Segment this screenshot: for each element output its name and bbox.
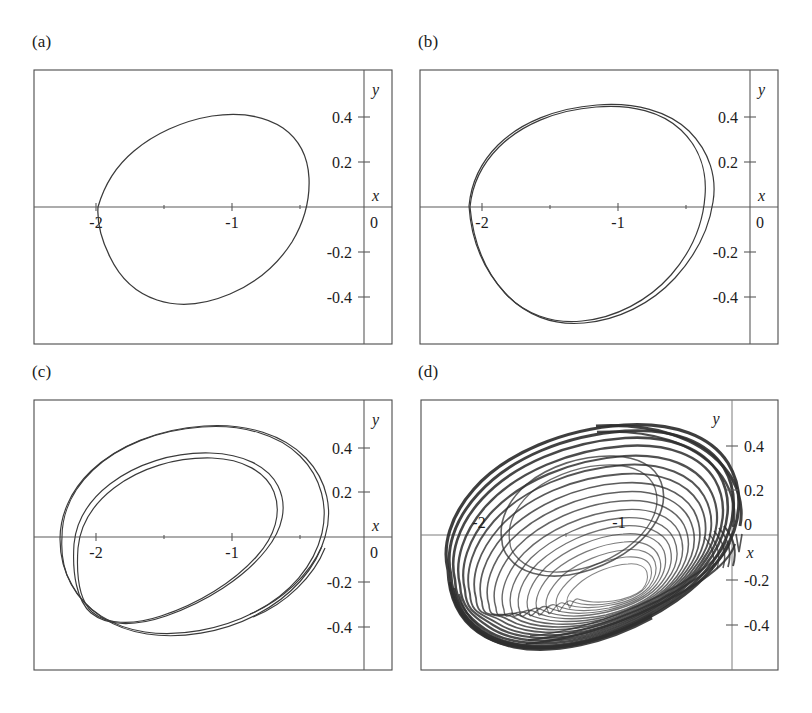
panel-d-plot: 0.4 0.2 -0.2 -0.4 0 -2 -1 y x: [406, 356, 812, 713]
panel-d-ytick-0: 0.4: [744, 438, 764, 455]
panel-d-xtick-0: -2: [472, 514, 485, 531]
panel-a-ytick-2: -0.2: [327, 244, 352, 261]
panel-a-ytick-3: -0.4: [327, 289, 352, 306]
panel-b: (b) 0.4 0.2 -0.2 -0.4 -2 -1 0: [406, 0, 812, 356]
panel-b-xtick-0: -2: [475, 214, 488, 231]
panel-a-y-axis-label: y: [370, 81, 380, 99]
panel-b-origin-label: 0: [756, 214, 764, 231]
panel-b-ytick-2: -0.2: [713, 244, 738, 261]
panel-a-origin-label: 0: [370, 214, 378, 231]
panel-c-ytick-0: 0.4: [332, 440, 352, 457]
panel-c-ytick-3: -0.4: [327, 619, 352, 636]
panel-b-plot: 0.4 0.2 -0.2 -0.4 -2 -1 0 x y: [406, 0, 812, 356]
panel-d-ytick-3: -0.4: [744, 617, 769, 634]
panel-c-plot: 0.4 0.2 -0.2 -0.4 -2 -1 0 x y: [0, 356, 406, 713]
panel-b-ytick-1: 0.2: [718, 154, 738, 171]
panel-b-ytick-0: 0.4: [718, 109, 738, 126]
panel-c-xtick-1: -1: [225, 544, 238, 561]
panel-c-ytick-2: -0.2: [327, 574, 352, 591]
panel-b-ytick-3: -0.4: [713, 289, 738, 306]
panel-b-x-axis-label: x: [757, 187, 765, 204]
panel-c: (c) 0.4 0.2 -0.2 -0.4 -2 -1 0: [0, 356, 406, 713]
panel-a: (a) 0.4 0.2 -0: [0, 0, 406, 356]
panel-d-x-axis-label: x: [745, 544, 753, 561]
panel-c-origin-label: 0: [370, 544, 378, 561]
panel-a-xtick-0: -2: [89, 214, 102, 231]
panel-a-xtick-1: -1: [225, 214, 238, 231]
panel-d-ytick-1: 0.2: [744, 482, 764, 499]
panel-c-y-axis-label: y: [370, 411, 380, 429]
figure-container: (a) 0.4 0.2 -0: [0, 0, 812, 713]
panel-b-y-axis-label: y: [756, 81, 766, 99]
panel-b-xtick-1: -1: [611, 214, 624, 231]
panel-c-xtick-0: -2: [89, 544, 102, 561]
panel-d-y-axis-label: y: [710, 410, 720, 428]
panel-d-ytick-2: -0.2: [744, 572, 769, 589]
panel-a-ytick-1: 0.2: [332, 154, 352, 171]
panel-a-x-axis-label: x: [371, 187, 379, 204]
panel-d: (d): [406, 356, 812, 713]
panel-a-plot: 0.4 0.2 -0.2 -0.4 -2 -1 0 x y: [0, 0, 406, 356]
panel-c-ytick-1: 0.2: [332, 484, 352, 501]
panel-c-x-axis-label: x: [371, 517, 379, 534]
panel-d-origin-label: 0: [744, 516, 752, 533]
panel-a-ytick-0: 0.4: [332, 109, 352, 126]
panel-d-xtick-1: -1: [612, 514, 625, 531]
